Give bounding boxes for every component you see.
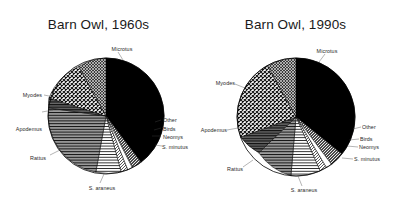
label-myodes: Myodes <box>2 92 42 98</box>
label-other: Other <box>362 124 376 130</box>
pie-chart-1990s <box>197 0 394 205</box>
label-neomys: Neomys <box>359 144 379 150</box>
label-s-minutus: S. minutus <box>162 144 188 150</box>
label-birds: Birds <box>163 126 176 132</box>
pie-svg-1960s <box>0 0 197 205</box>
label-rattus: Rattus <box>8 155 46 161</box>
label-myodes: Myodes <box>197 80 235 86</box>
label-s-araneus: S. araneus <box>72 185 132 191</box>
label-birds: Birds <box>360 136 373 142</box>
label-apodemus: Apodemus <box>185 127 227 133</box>
chart-panel-1960s: Barn Owl, 1960s <box>0 0 197 205</box>
label-microtus: Microtus <box>92 46 152 52</box>
label-apodemus: Apodemus <box>0 126 42 132</box>
chart-panel-1990s: Barn Owl, 1990s <box>197 0 394 205</box>
label-other: Other <box>163 117 177 123</box>
label-rattus: Rattus <box>199 166 243 172</box>
label-s-araneus: S. araneus <box>275 187 333 193</box>
pie-svg-1990s <box>197 0 394 205</box>
label-neomys: Neomys <box>163 134 183 140</box>
figure-canvas: Barn Owl, 1960s <box>0 0 394 205</box>
label-s-minutus: S. minutus <box>354 156 380 162</box>
label-microtus: Microtus <box>297 48 357 54</box>
wedge-s-araneus <box>48 108 106 172</box>
pie-chart-1960s <box>0 0 197 205</box>
